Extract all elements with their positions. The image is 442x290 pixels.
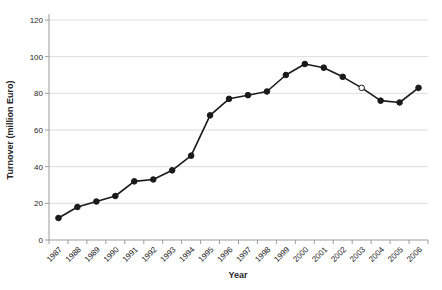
x-tick-label: 1993 [159, 245, 178, 264]
x-tick-label: 1989 [83, 245, 102, 264]
x-tick-label: 1990 [102, 245, 121, 264]
data-point-hollow [359, 85, 365, 91]
x-tick-label: 2002 [329, 245, 348, 264]
gridlines [49, 20, 428, 203]
x-tick-label: 1995 [197, 245, 216, 264]
data-point [283, 72, 289, 78]
data-point [302, 61, 308, 67]
data-point [226, 96, 232, 102]
data-point [264, 89, 270, 95]
x-tick-label: 2001 [310, 245, 329, 264]
data-series [56, 61, 422, 221]
data-point [416, 85, 422, 91]
data-point [94, 199, 100, 205]
data-point [378, 98, 384, 104]
y-tick-label: 100 [30, 53, 44, 62]
data-point [321, 65, 327, 71]
x-tick-label: 1999 [272, 245, 291, 264]
y-tick-label: 40 [34, 163, 43, 172]
data-point [340, 74, 346, 80]
data-point [56, 215, 62, 221]
y-tick-label: 80 [34, 89, 43, 98]
chart-canvas: 0204060801001201987198819891990199119921… [0, 0, 442, 290]
x-tick-label: 1996 [215, 245, 234, 264]
x-tick-label: 2006 [405, 245, 424, 264]
x-tick-label: 1991 [121, 245, 140, 264]
data-point [245, 92, 251, 98]
x-tick-label: 2000 [291, 245, 310, 264]
turnover-line-chart: 0204060801001201987198819891990199119921… [0, 0, 442, 290]
data-point [207, 113, 213, 119]
x-tick-label: 2003 [348, 245, 367, 264]
x-tick-label: 1987 [45, 245, 64, 264]
x-tick-label: 1988 [64, 245, 83, 264]
data-point [188, 153, 194, 159]
data-point [75, 204, 81, 210]
x-tick-label: 1994 [178, 245, 197, 264]
axes [45, 14, 428, 244]
data-point [150, 177, 156, 183]
x-tick-label: 1998 [253, 245, 272, 264]
chart-page: 0204060801001201987198819891990199119921… [0, 0, 442, 290]
data-point [113, 193, 119, 199]
x-tick-label: 1997 [234, 245, 253, 264]
x-axis-title: Year [228, 270, 248, 280]
data-point [131, 179, 137, 185]
x-tick-label: 1992 [140, 245, 159, 264]
y-tick-label: 20 [34, 199, 43, 208]
y-axis-title: Turnover (million Euro) [5, 81, 15, 180]
data-point [397, 100, 403, 106]
y-tick-label: 0 [39, 236, 44, 245]
x-tick-label: 2004 [367, 245, 386, 264]
y-tick-label: 60 [34, 126, 43, 135]
data-point [169, 168, 175, 174]
tick-labels: 0204060801001201987198819891990199119921… [30, 16, 425, 264]
y-tick-label: 120 [30, 16, 44, 25]
x-tick-label: 2005 [386, 245, 405, 264]
